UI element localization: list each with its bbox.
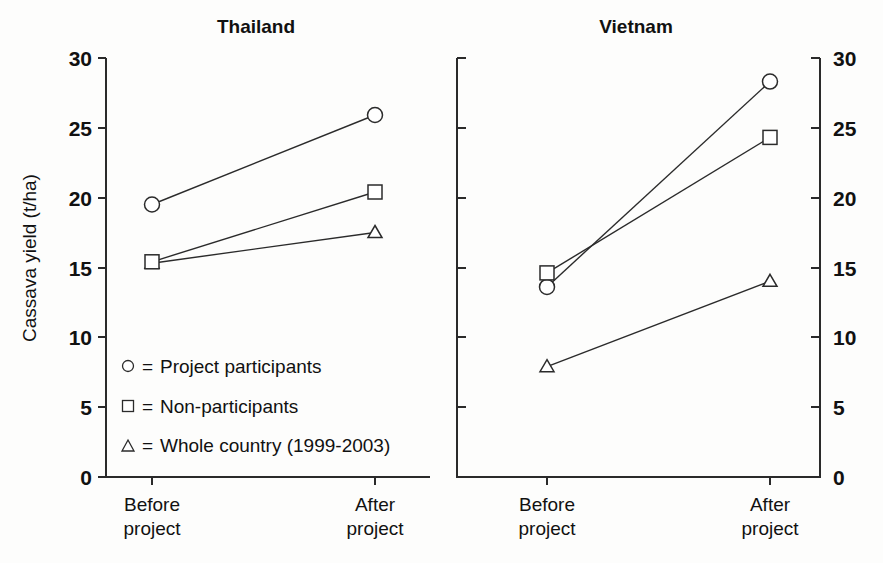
legend-label-project-participants: Project participants xyxy=(160,356,322,377)
marker-circle xyxy=(145,197,160,212)
y-tick-label-right-25: 25 xyxy=(833,117,857,140)
y-tick-label-15: 15 xyxy=(69,257,93,280)
y-tick-label-right-20: 20 xyxy=(833,187,856,210)
x-label-before-line2: project xyxy=(123,518,181,539)
legend-equals-1: = xyxy=(142,356,153,377)
x-label-after-line2: project xyxy=(741,518,799,539)
x-label-before-line1: Before xyxy=(124,494,180,515)
legend-entry-non-participants: = Non-participants xyxy=(123,396,299,417)
y-tick-label-10: 10 xyxy=(69,326,92,349)
panel-vietnam: 30 25 20 15 10 5 0 Vietnam xyxy=(457,16,857,539)
panel-title-vietnam: Vietnam xyxy=(599,16,673,37)
x-label-after-line1: After xyxy=(355,494,396,515)
marker-square xyxy=(145,255,159,269)
y-tick-label-right-10: 10 xyxy=(833,326,856,349)
y-tick-label-5: 5 xyxy=(80,396,92,419)
vietnam-series-project-participants xyxy=(540,74,778,294)
thailand-x-labels: Before project After project xyxy=(123,494,404,539)
marker-circle xyxy=(368,108,383,123)
chart-figure: 30 25 20 15 10 5 0 Thailand xyxy=(0,0,883,563)
marker-circle xyxy=(540,279,555,294)
thailand-series-whole-country xyxy=(145,226,382,269)
panel-title-thailand: Thailand xyxy=(217,16,295,37)
thailand-y-ticks xyxy=(98,58,106,477)
y-tick-label-right-0: 0 xyxy=(833,466,845,489)
vietnam-x-labels: Before project After project xyxy=(518,494,799,539)
x-label-before-line1: Before xyxy=(519,494,575,515)
y-tick-label-right-5: 5 xyxy=(833,396,845,419)
marker-square xyxy=(540,266,554,280)
vietnam-left-ticks xyxy=(457,58,466,407)
vietnam-right-ticks xyxy=(811,58,820,407)
cassava-yield-chart: 30 25 20 15 10 5 0 Thailand xyxy=(0,0,883,563)
thailand-y-tick-labels: 30 25 20 15 10 5 0 xyxy=(69,47,93,489)
vietnam-series-non-participants xyxy=(540,130,777,280)
y-tick-label-25: 25 xyxy=(69,117,93,140)
y-tick-label-right-15: 15 xyxy=(833,257,857,280)
legend-circle-icon xyxy=(123,361,134,372)
marker-square xyxy=(368,185,382,199)
marker-triangle xyxy=(540,360,554,372)
x-label-after-line2: project xyxy=(346,518,404,539)
legend-label-whole-country: Whole country (1999-2003) xyxy=(160,435,390,456)
thailand-x-ticks xyxy=(152,477,375,485)
legend-equals-3: = xyxy=(142,435,153,456)
y-axis-label: Cassava yield (t/ha) xyxy=(19,174,40,342)
y-tick-label-20: 20 xyxy=(69,187,92,210)
x-label-after-line1: After xyxy=(750,494,791,515)
marker-triangle xyxy=(368,226,382,238)
thailand-series-non-participants xyxy=(145,185,382,269)
chart-legend: = Project participants = Non-participant… xyxy=(122,356,390,456)
marker-square xyxy=(763,130,777,144)
panel-thailand: 30 25 20 15 10 5 0 Thailand xyxy=(69,16,430,539)
legend-entry-whole-country: = Whole country (1999-2003) xyxy=(122,435,390,456)
y-tick-label-right-30: 30 xyxy=(833,47,856,70)
legend-entry-project-participants: = Project participants xyxy=(123,356,322,377)
y-tick-label-0: 0 xyxy=(80,466,92,489)
legend-equals-2: = xyxy=(142,396,153,417)
vietnam-axis-frame xyxy=(457,58,820,477)
vietnam-x-ticks xyxy=(547,477,770,485)
legend-square-icon xyxy=(123,401,134,412)
vietnam-series-whole-country xyxy=(540,274,777,371)
marker-circle xyxy=(763,74,778,89)
legend-label-non-participants: Non-participants xyxy=(160,396,298,417)
x-label-before-line2: project xyxy=(518,518,576,539)
y-tick-label-30: 30 xyxy=(69,47,92,70)
marker-triangle xyxy=(763,274,777,286)
legend-triangle-icon xyxy=(122,440,134,451)
vietnam-y-tick-labels: 30 25 20 15 10 5 0 xyxy=(833,47,857,489)
thailand-series-project-participants xyxy=(145,108,383,213)
